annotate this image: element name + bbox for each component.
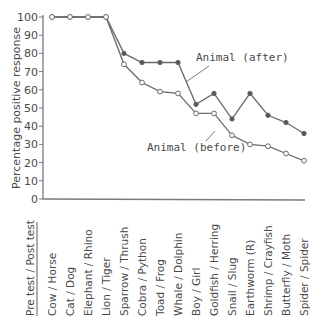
data-point [284, 120, 288, 124]
data-point [50, 15, 55, 20]
x-axis-line [43, 199, 305, 200]
series-after [50, 15, 306, 136]
category-label: Elephant / Rhino [82, 229, 94, 316]
y-tick-label: 10 [24, 175, 38, 188]
category-label: Butterfly / Moth [280, 234, 292, 316]
data-point [68, 15, 73, 20]
y-tick-label: 90 [24, 29, 38, 42]
data-point [194, 102, 198, 106]
category-label: Spider / Spider [298, 238, 310, 316]
category-label: Lion / Tiger [100, 257, 112, 316]
data-point [284, 151, 289, 156]
y-tick-label: 0 [31, 193, 38, 206]
y-tick-label: 50 [24, 102, 38, 115]
line-chart: 0102030405060708090100 Animal (after)Ani… [0, 0, 322, 322]
category-label: Shrimp / Crayfish [262, 225, 274, 316]
y-axis-title: Percentage positive response [10, 27, 23, 189]
y-tick-label: 30 [24, 138, 38, 151]
data-point [230, 117, 234, 121]
data-point [176, 91, 181, 96]
data-point [122, 62, 127, 67]
category-label: Cow / Horse [46, 253, 58, 316]
y-tick-label: 20 [24, 157, 38, 170]
data-point [230, 133, 235, 138]
y-tick-label: 40 [24, 120, 38, 133]
category-labels: Pre test / Post testCow / HorseCat / Dog… [24, 220, 310, 317]
category-label: Sparrow / Thrush [118, 227, 130, 316]
y-tick-label: 70 [24, 66, 38, 79]
series-annotation-label: Animal (before) [147, 141, 246, 154]
data-point [194, 111, 199, 116]
annotation-leader [206, 131, 215, 141]
category-header-label: Pre test / Post test [24, 220, 36, 316]
y-tick-label: 100 [17, 11, 38, 24]
data-point [212, 91, 216, 95]
data-point [248, 142, 253, 147]
annotation-leader [186, 66, 209, 82]
category-label: Whale / Dolphin [172, 233, 184, 316]
series-annotation-label: Animal (after) [196, 51, 289, 64]
data-point [158, 89, 163, 94]
data-point [266, 113, 270, 117]
data-point [176, 60, 180, 64]
data-point [104, 15, 109, 20]
category-label: Cat / Dog [64, 267, 76, 316]
x-axis [43, 199, 305, 200]
data-point [266, 144, 271, 149]
data-point [86, 15, 91, 20]
data-point [158, 60, 162, 64]
category-label: Boy / Girl [190, 268, 202, 316]
data-point [140, 80, 145, 85]
data-point [212, 111, 217, 116]
category-label: Snail / Slug [226, 257, 238, 316]
annotation-layer: Animal (after)Animal (before) [147, 51, 289, 154]
data-point [302, 131, 306, 135]
category-label: Toad / Frog [154, 259, 166, 317]
data-point [122, 51, 126, 55]
series-line [52, 17, 304, 161]
data-point [248, 91, 252, 95]
data-point [140, 60, 144, 64]
y-tick-label: 80 [24, 47, 38, 60]
category-label: Goldfish / Herring [208, 224, 220, 316]
y-tick-label: 60 [24, 84, 38, 97]
category-label: Cobra / Python [136, 238, 148, 316]
data-point [302, 158, 307, 163]
category-label: Earthworm (R) [244, 240, 256, 316]
